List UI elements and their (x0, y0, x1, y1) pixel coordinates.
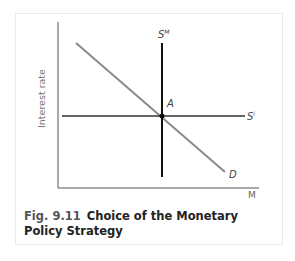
si-label: Si (247, 111, 255, 122)
equilibrium-point (160, 114, 165, 119)
demand-curve (76, 43, 225, 172)
point-a-label: A (167, 99, 174, 109)
figure-caption: Fig. 9.11Choice of the Monetary Policy S… (24, 209, 274, 239)
sm-label: SM (158, 29, 170, 40)
demand-label: D (229, 170, 237, 180)
figure-number: Fig. 9.11 (24, 209, 81, 223)
x-axis-label: M (248, 191, 256, 200)
y-axis-label: Interest rate (36, 69, 47, 128)
